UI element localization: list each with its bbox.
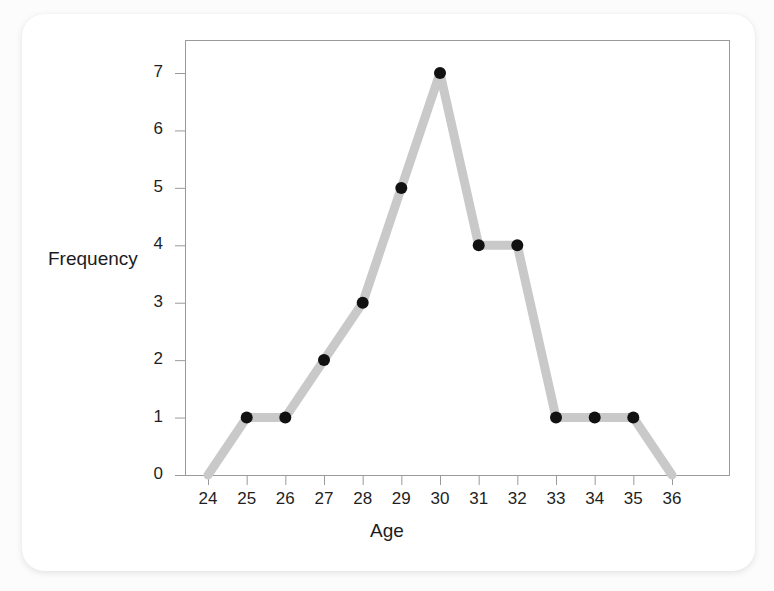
y-tick-label: 0 (139, 464, 163, 484)
frequency-polygon-line (208, 73, 672, 475)
data-point-marker (279, 412, 291, 424)
data-point-marker (434, 67, 446, 79)
x-tick-label: 27 (307, 489, 341, 509)
x-tick-label: 26 (268, 489, 302, 509)
data-point-marker (318, 354, 330, 366)
page-background: the data set and the shape of the distri… (0, 0, 774, 591)
x-tick-label: 24 (191, 489, 225, 509)
data-point-marker (589, 412, 601, 424)
data-point-marker (511, 239, 523, 251)
x-tick-label: 35 (616, 489, 650, 509)
x-tick-label: 34 (578, 489, 612, 509)
data-point-marker (550, 412, 562, 424)
x-tick-label: 33 (539, 489, 573, 509)
y-tick-label: 1 (139, 407, 163, 427)
y-tick-label: 7 (139, 62, 163, 82)
x-tick-label: 32 (500, 489, 534, 509)
y-tick-label: 5 (139, 177, 163, 197)
data-point-marker (473, 239, 485, 251)
data-point-marker (395, 182, 407, 194)
y-tick-label: 2 (139, 349, 163, 369)
x-axis-title: Age (0, 520, 774, 542)
data-point-marker (357, 297, 369, 309)
x-tick-label: 30 (423, 489, 457, 509)
x-tick-label: 31 (462, 489, 496, 509)
data-point-marker (241, 412, 253, 424)
plot-frame (186, 41, 730, 476)
x-tick-label: 36 (655, 489, 689, 509)
x-tick-label: 29 (384, 489, 418, 509)
y-tick-label: 6 (139, 119, 163, 139)
data-point-marker (627, 412, 639, 424)
data-point-markers (241, 67, 640, 424)
y-tick-label: 4 (139, 234, 163, 254)
frequency-polygon-chart: 01234567 24252627282930313233343536 Freq… (0, 0, 774, 591)
y-axis-ticks (175, 74, 185, 476)
x-axis-ticks (209, 475, 673, 485)
y-tick-label: 3 (139, 292, 163, 312)
x-tick-label: 28 (346, 489, 380, 509)
y-axis-title: Frequency (48, 248, 138, 270)
x-tick-label: 25 (230, 489, 264, 509)
